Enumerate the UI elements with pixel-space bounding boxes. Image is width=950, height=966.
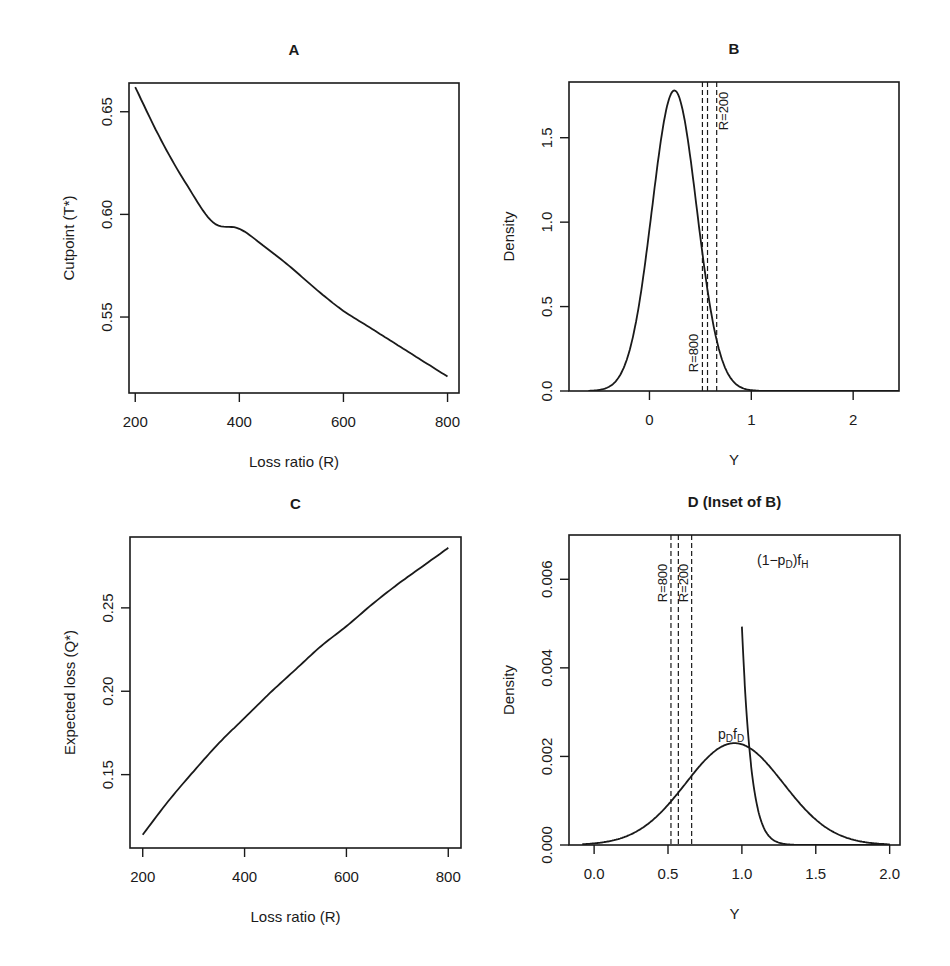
x-tick-label: 800 bbox=[435, 413, 460, 430]
x-tick-label: 2 bbox=[849, 411, 857, 428]
disease-density-label: pDfD bbox=[718, 726, 744, 744]
x-axis-label: Y bbox=[729, 451, 739, 468]
x-axis-label: Loss ratio (R) bbox=[249, 453, 339, 470]
y-tick-label: 1.0 bbox=[538, 212, 555, 233]
y-tick-label: 0.15 bbox=[99, 760, 116, 789]
x-axis-label: Y bbox=[729, 905, 739, 922]
dashed-line-label: R=800 bbox=[655, 564, 670, 603]
panel-d-inset-density-chart: D (Inset of B)0.00.51.01.52.00.0000.0020… bbox=[500, 493, 900, 922]
panel-title: C bbox=[290, 495, 301, 512]
x-tick-label: 200 bbox=[130, 868, 155, 885]
x-tick-label: 1.0 bbox=[731, 865, 752, 882]
panel-title: A bbox=[289, 41, 300, 58]
x-tick-label: 0.0 bbox=[584, 865, 605, 882]
healthy-density-label: (1−pD)fH bbox=[757, 552, 808, 570]
y-tick-label: 0.5 bbox=[538, 296, 555, 317]
y-axis-label: Density bbox=[500, 664, 517, 715]
y-tick-label: 0.25 bbox=[99, 593, 116, 622]
x-tick-label: 1 bbox=[747, 411, 755, 428]
series-curve bbox=[143, 548, 449, 835]
y-tick-label: 1.5 bbox=[538, 127, 555, 148]
panel-c-expected-loss-chart: C2004006008000.150.200.25Loss ratio (R)E… bbox=[61, 495, 461, 925]
x-tick-label: 600 bbox=[334, 868, 359, 885]
dashed-line-label: R=200 bbox=[716, 92, 731, 131]
y-axis-label: Cutpoint (T*) bbox=[60, 195, 77, 280]
plot-frame bbox=[129, 83, 459, 393]
panel-a-cutpoint-chart: A2004006008000.550.600.65Loss ratio (R)C… bbox=[60, 41, 460, 470]
panel-title: D (Inset of B) bbox=[688, 493, 781, 510]
x-tick-label: 600 bbox=[331, 413, 356, 430]
dashed-line-label: R=800 bbox=[686, 334, 701, 373]
x-tick-label: 0.5 bbox=[658, 865, 679, 882]
y-tick-label: 0.002 bbox=[538, 738, 555, 776]
x-tick-label: 200 bbox=[123, 413, 148, 430]
y-tick-label: 0.0 bbox=[538, 381, 555, 402]
y-tick-label: 0.20 bbox=[99, 677, 116, 706]
figure: A2004006008000.550.600.65Loss ratio (R)C… bbox=[0, 0, 950, 966]
panel-b-density-chart: B0120.00.51.01.5YDensityR=800R=200 bbox=[500, 40, 899, 468]
y-tick-label: 0.65 bbox=[98, 97, 115, 126]
x-tick-label: 400 bbox=[232, 868, 257, 885]
series-curve bbox=[742, 627, 890, 845]
x-tick-label: 2.0 bbox=[879, 865, 900, 882]
y-tick-label: 0.60 bbox=[98, 200, 115, 229]
y-axis-label: Expected loss (Q*) bbox=[61, 630, 78, 755]
x-tick-label: 800 bbox=[436, 868, 461, 885]
x-axis-label: Loss ratio (R) bbox=[250, 908, 340, 925]
y-tick-label: 0.55 bbox=[98, 302, 115, 331]
plot-frame bbox=[569, 82, 899, 391]
plot-frame bbox=[130, 537, 461, 848]
series-curve bbox=[135, 87, 447, 377]
plot-frame bbox=[569, 535, 900, 845]
y-tick-label: 0.006 bbox=[538, 561, 555, 599]
dashed-line-label: R=200 bbox=[676, 564, 691, 603]
x-tick-label: 400 bbox=[227, 413, 252, 430]
series-curve bbox=[588, 90, 899, 391]
series-curve bbox=[582, 743, 889, 844]
y-tick-label: 0.000 bbox=[538, 826, 555, 864]
panel-title: B bbox=[729, 40, 740, 57]
x-tick-label: 1.5 bbox=[805, 865, 826, 882]
y-tick-label: 0.004 bbox=[538, 649, 555, 687]
x-tick-label: 0 bbox=[645, 411, 653, 428]
y-axis-label: Density bbox=[500, 211, 517, 262]
